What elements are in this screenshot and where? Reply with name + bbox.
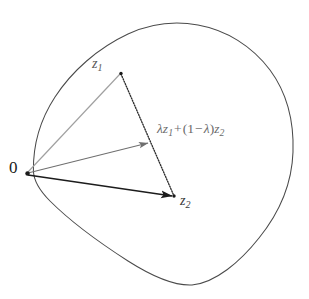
label-z2-subscript: 2 bbox=[185, 199, 190, 210]
formula-plus: + bbox=[173, 121, 183, 136]
label-convex-combination: λz1+(1−λ)z2 bbox=[157, 122, 224, 137]
label-z1: z1 bbox=[92, 57, 103, 73]
label-origin: 0 bbox=[9, 159, 18, 176]
ray-origin-to-z2 bbox=[28, 175, 172, 196]
z1-point-dot bbox=[119, 72, 122, 75]
formula-minus: − bbox=[194, 121, 204, 136]
label-z2: z2 bbox=[180, 194, 191, 210]
label-z1-subscript: 1 bbox=[97, 62, 102, 73]
origin-point-dot bbox=[25, 171, 29, 175]
formula-one: 1 bbox=[187, 121, 194, 136]
figure-canvas bbox=[0, 0, 309, 299]
ray-origin-to-combination bbox=[28, 143, 148, 173]
convex-combination-figure: 0 z1 z2 λz1+(1−λ)z2 bbox=[0, 0, 309, 299]
convex-set-boundary bbox=[33, 23, 293, 285]
z2-point-dot bbox=[172, 194, 175, 197]
formula-z2-subscript: 2 bbox=[219, 127, 224, 138]
